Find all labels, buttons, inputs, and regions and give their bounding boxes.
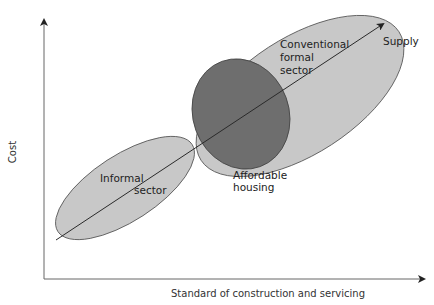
conventional-label-line3: sector	[280, 64, 313, 76]
y-axis-label: Cost	[7, 141, 18, 163]
supply-label: Supply	[383, 35, 419, 47]
conventional-label-line2: formal	[280, 51, 314, 63]
conventional-label-line1: Conventional	[280, 38, 349, 50]
housing-supply-diagram: Cost Standard of construction and servic…	[0, 0, 434, 305]
informal-label-line1: Informal	[100, 172, 144, 184]
informal-sector-region	[40, 117, 210, 259]
x-axis-label: Standard of construction and servicing	[171, 288, 365, 299]
informal-label-line2: sector	[134, 184, 167, 196]
affordable-label-line1: Affordable	[233, 169, 287, 181]
affordable-label-line2: housing	[233, 181, 274, 193]
